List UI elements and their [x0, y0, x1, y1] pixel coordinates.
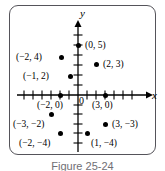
- point-label-2-3: (2, 3): [103, 60, 124, 70]
- origin-label: 0: [79, 96, 84, 106]
- point-label-neg1-2: (−1, 2): [23, 72, 49, 82]
- figure-caption: Figure 25-24: [0, 160, 165, 171]
- data-point: [76, 43, 81, 48]
- point-label-neg2-0: (−2, 0): [37, 101, 63, 111]
- data-point: [59, 55, 64, 60]
- coordinate-plane: x y 0 (−2, 4) (0, 5) (2, 3) (−1, 2) (−2,…: [0, 0, 165, 171]
- data-point: [68, 74, 73, 79]
- data-point: [49, 112, 54, 117]
- data-point: [103, 93, 108, 98]
- y-axis-label: y: [80, 8, 85, 19]
- data-point: [58, 93, 63, 98]
- point-label-neg2-4: (−2, 4): [16, 53, 42, 63]
- point-label-1-neg4: (1, −4): [91, 139, 117, 149]
- data-point: [58, 131, 63, 136]
- data-point: [94, 62, 99, 67]
- figure-container: x y 0 (−2, 4) (0, 5) (2, 3) (−1, 2) (−2,…: [0, 0, 165, 171]
- point-label-neg3-neg2: (−3, −2): [13, 120, 44, 130]
- point-label-0-5: (0, 5): [85, 41, 106, 51]
- point-label-3-neg3: (3, −3): [112, 120, 138, 130]
- x-axis-label: x: [152, 90, 157, 101]
- data-point: [103, 122, 108, 127]
- point-label-3-0: (3, 0): [92, 101, 113, 111]
- point-label-neg2-neg4: (−2, −4): [19, 139, 50, 149]
- data-point: [85, 131, 90, 136]
- y-axis-arrow: [75, 20, 82, 27]
